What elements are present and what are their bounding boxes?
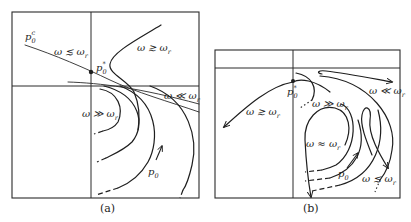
panel-b-curve-omega-approx (305, 107, 349, 197)
panel-a: p0c ω ≲ ωr p0* ω ≳ ωr ω ≪ ωr ω ≫ ωr p0 (… (12, 12, 201, 215)
panel-a-dash-outer (180, 190, 183, 198)
panel-a-p0star-point (89, 70, 93, 74)
panel-b-p0star-point (291, 79, 295, 83)
panel-b-curve-omega-gg (296, 73, 314, 100)
panel-a-curve-omega-lesssim (25, 45, 199, 112)
panel-a-dash-omega-gg (94, 131, 103, 134)
panel-b-curve-omega-ll (319, 71, 392, 82)
panel-a-frame (12, 12, 199, 198)
panel-b-label-omega-approx: ω ≈ ωr (306, 138, 341, 152)
panel-a-label-omega-gtrsim: ω ≳ ωr (137, 42, 172, 56)
panel-a-caption: (a) (100, 202, 115, 215)
panel-b-curve-omega-lesssim (362, 108, 388, 168)
panel-b-caption: (b) (303, 202, 319, 215)
panel-b-curve-inner-2 (330, 120, 361, 178)
panel-b: p0* ω ≳ ωr ω ≫ ωr ω ≪ ωr ω ≈ ωr p0 ω ≲ ω… (215, 50, 406, 215)
panel-a-dash-p0 (96, 188, 118, 195)
panel-a-label-p0c: p0c (25, 29, 36, 45)
panel-a-label-omega-gg: ω ≫ ωr (82, 108, 119, 122)
panel-b-p0-arrow-icon (347, 153, 358, 168)
panel-a-p0-arrow-icon (156, 146, 162, 160)
panel-a-dash-mid (97, 158, 106, 162)
panel-b-label-p0: p0 (338, 168, 349, 182)
panel-b-label-p0star: p0* (287, 84, 298, 100)
panel-b-label-omega-gtrsim: ω ≳ ωr (246, 106, 281, 120)
panel-b-dash-omega-gg (300, 100, 312, 108)
panel-b-dash-inner-3 (312, 185, 340, 191)
figure: p0c ω ≲ ωr p0* ω ≳ ωr ω ≪ ωr ω ≫ ωr p0 (… (0, 0, 411, 222)
panel-a-label-p0star: p0* (96, 60, 107, 76)
panel-b-label-omega-lesssim: ω ≲ ωr (362, 173, 397, 187)
panel-b-label-omega-gg: ω ≫ ωr (312, 98, 349, 112)
panel-a-curve-mid (104, 86, 139, 158)
panel-b-curve-inner-1 (322, 104, 353, 170)
panel-a-label-p0: p0 (148, 166, 159, 180)
